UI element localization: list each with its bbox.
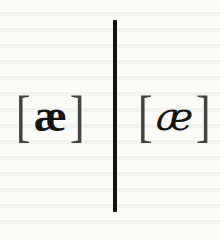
open-bracket: [	[16, 88, 31, 144]
open-bracket: [	[138, 88, 153, 144]
ash-glyph-serif: æ	[34, 93, 67, 139]
ash-glyph-script: æ	[156, 96, 194, 136]
ipa-symbol-right: [ æ ]	[136, 84, 213, 148]
close-bracket: ]	[196, 88, 211, 144]
close-bracket: ]	[70, 88, 85, 144]
vertical-divider	[113, 20, 117, 212]
ipa-symbol-left: [ æ ]	[14, 84, 87, 148]
